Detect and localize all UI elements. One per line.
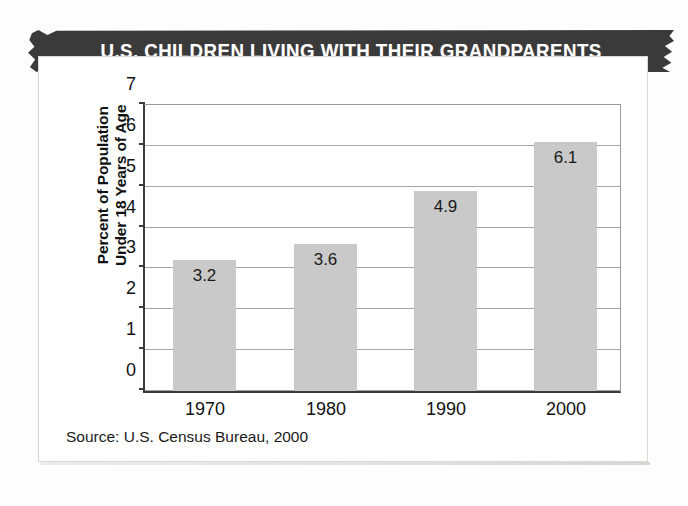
chart-card: Percent of Population Under 18 Years of … (38, 56, 648, 462)
y-tick-mark-6 (139, 143, 145, 145)
bar-1970[interactable]: 3.2 1970 (173, 260, 236, 391)
source-note: Source: U.S. Census Bureau, 2000 (66, 428, 308, 446)
bar-value-1970: 3.2 (173, 266, 236, 286)
card-shadow (40, 462, 650, 465)
x-tick-label-1980: 1980 (281, 399, 371, 420)
y-tick-mark-5 (139, 184, 145, 186)
plot-area: 0 1 2 3 4 5 6 7 3.2 1970 3.6 1980 4.9 19… (143, 104, 621, 393)
x-tick-label-1970: 1970 (160, 399, 250, 420)
y-tick-label-3: 3 (126, 237, 136, 258)
y-tick-label-2: 2 (126, 278, 136, 299)
page-root: U.S. CHILDREN LIVING WITH THEIR GRANDPAR… (0, 0, 688, 506)
y-tick-label-5: 5 (126, 155, 136, 176)
x-tick-label-1990: 1990 (401, 399, 491, 420)
y-axis-title: Percent of Population Under 18 Years of … (94, 60, 131, 310)
bar-1990[interactable]: 4.9 1990 (414, 191, 477, 391)
y-tick-label-7: 7 (126, 74, 136, 95)
bar-value-2000: 6.1 (534, 148, 597, 168)
y-tick-label-0: 0 (126, 360, 136, 381)
y-tick-label-4: 4 (126, 196, 136, 217)
y-tick-mark-0 (139, 388, 145, 390)
y-tick-mark-4 (139, 225, 145, 227)
bar-2000[interactable]: 6.1 2000 (534, 142, 597, 391)
x-tick-label-2000: 2000 (521, 399, 611, 420)
y-axis-title-line-2: Under 18 Years of Age (112, 60, 130, 310)
y-tick-mark-2 (139, 306, 145, 308)
y-tick-mark-1 (139, 347, 145, 349)
y-tick-mark-3 (139, 265, 145, 267)
bar-1980[interactable]: 3.6 1980 (294, 244, 357, 391)
y-tick-label-1: 1 (126, 319, 136, 340)
y-axis-title-line-1: Percent of Population (94, 60, 112, 310)
y-tick-label-6: 6 (126, 114, 136, 135)
bar-value-1980: 3.6 (294, 250, 357, 270)
y-tick-mark-7 (139, 102, 145, 104)
bar-value-1990: 4.9 (414, 197, 477, 217)
